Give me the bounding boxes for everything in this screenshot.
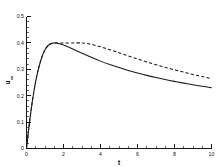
x-tick-label: 6 bbox=[136, 151, 139, 157]
y-tick-label: 0.2 bbox=[17, 93, 24, 99]
y-axis-tick-labels: 00.10.20.30.40.5 bbox=[17, 13, 24, 151]
x-axis-tick-labels: 0246810 bbox=[25, 151, 214, 157]
x-tick-label: 10 bbox=[209, 151, 215, 157]
chart-figure: 0246810 00.10.20.30.40.5 t u m bbox=[0, 0, 223, 167]
x-tick-label: 0 bbox=[25, 151, 28, 157]
y-axis-label-subscript: m bbox=[9, 76, 14, 80]
y-tick-label: 0 bbox=[21, 145, 24, 151]
series-dashed-line bbox=[27, 43, 212, 149]
x-tick-label: 2 bbox=[62, 151, 65, 157]
y-tick-label: 0.1 bbox=[17, 119, 24, 125]
x-tick-label: 8 bbox=[173, 151, 176, 157]
x-tick-label: 4 bbox=[99, 151, 102, 157]
series-solid-line bbox=[27, 43, 212, 149]
y-tick-label: 0.4 bbox=[17, 40, 24, 46]
y-tick-label: 0.5 bbox=[17, 13, 24, 19]
y-axis-label: u m bbox=[4, 76, 14, 85]
y-tick-label: 0.3 bbox=[17, 66, 24, 72]
y-axis-label-text: u bbox=[4, 80, 11, 84]
line-chart: 0246810 00.10.20.30.40.5 t u m bbox=[0, 0, 223, 167]
x-axis-label: t bbox=[118, 159, 121, 166]
